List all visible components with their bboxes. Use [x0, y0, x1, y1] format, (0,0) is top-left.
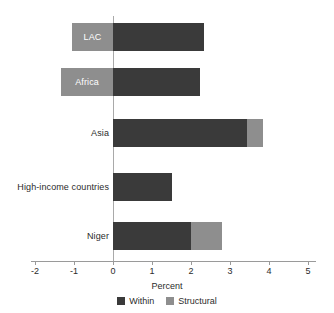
bar-row-africa: Africa — [0, 68, 334, 96]
x-axis-title: Percent — [0, 281, 334, 291]
legend-swatch-structural-icon — [166, 297, 174, 305]
bar-segment-within[interactable] — [113, 23, 204, 51]
bar-segment-structural[interactable] — [191, 222, 222, 250]
category-label-niger: Niger — [0, 222, 109, 250]
bar-row-niger: Niger — [0, 222, 334, 250]
x-tick-label-2: 2 — [188, 266, 193, 276]
legend-label-structural: Structural — [178, 296, 217, 306]
legend: Within Structural — [0, 296, 334, 306]
bar-row-high-income-countries: High-income countries — [0, 173, 334, 201]
category-label-asia: Asia — [0, 119, 109, 147]
x-tick-label-5: 5 — [305, 266, 310, 276]
legend-item-structural[interactable]: Structural — [166, 296, 217, 306]
x-tick-2 — [191, 261, 192, 265]
bar-segment-structural[interactable] — [247, 119, 263, 147]
x-tick--1 — [74, 261, 75, 265]
x-tick-label-1: 1 — [149, 266, 154, 276]
chart-container: LAC Africa Asia High-income countries Ni… — [0, 0, 334, 313]
x-tick-label-3: 3 — [227, 266, 232, 276]
bar-segment-within[interactable] — [113, 68, 200, 96]
legend-item-within[interactable]: Within — [117, 296, 154, 306]
x-tick-4 — [269, 261, 270, 265]
bar-segment-within[interactable] — [113, 119, 247, 147]
x-tick-5 — [308, 261, 309, 265]
category-label-high-income-countries: High-income countries — [0, 173, 109, 201]
x-tick--2 — [35, 261, 36, 265]
legend-swatch-within-icon — [117, 297, 125, 305]
plot-area: LAC Africa Asia High-income countries Ni… — [0, 0, 334, 262]
bar-row-lac: LAC — [0, 23, 334, 51]
x-tick-1 — [152, 261, 153, 265]
category-label-lac: LAC — [72, 23, 113, 51]
x-tick-3 — [230, 261, 231, 265]
bar-segment-within[interactable] — [113, 173, 172, 201]
bar-row-asia: Asia — [0, 119, 334, 147]
x-tick-label--1: -1 — [70, 266, 78, 276]
bar-segment-within[interactable] — [113, 222, 191, 250]
legend-label-within: Within — [129, 296, 154, 306]
x-tick-label-0: 0 — [110, 266, 115, 276]
x-tick-label--2: -2 — [31, 266, 39, 276]
category-label-africa: Africa — [61, 68, 113, 96]
x-tick-0 — [113, 261, 114, 265]
x-tick-label-4: 4 — [266, 266, 271, 276]
